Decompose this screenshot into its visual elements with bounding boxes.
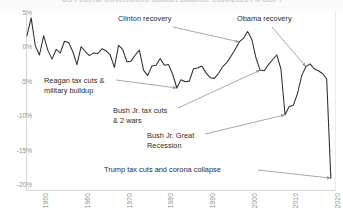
y-tick-label: 0%: [8, 44, 32, 51]
annotation-bush-jr-tax-cuts: Bush Jr. tax cuts& 2 wars: [113, 106, 167, 126]
chart-title: US Federal Government Budget Balance 193…: [0, 0, 343, 2]
series-layer: [0, 0, 343, 220]
annotation-line: Bush Jr. Great: [147, 131, 194, 141]
x-tick-label: 1980: [167, 193, 174, 208]
annotation-leader-line: [173, 27, 239, 42]
x-tick-label: 2000: [251, 193, 258, 208]
annotation-clinton-recovery: Clinton recovery: [118, 14, 171, 24]
plot-right-border: [335, 11, 336, 191]
annotation-great-recession: Bush Jr. GreatRecession: [147, 131, 194, 151]
x-tick-label: 2020: [334, 193, 341, 208]
annotation-leader-line: [258, 170, 331, 178]
y-axis-line: [26, 11, 27, 191]
annotation-line: Obama recovery: [237, 14, 292, 24]
annotation-arrow-head: [256, 70, 260, 73]
annotation-leader-line: [205, 115, 285, 134]
x-tick-label: 1950: [42, 193, 49, 208]
budget-balance-line: [27, 18, 331, 178]
annotation-leader-line: [116, 80, 177, 88]
annotation-line: Clinton recovery: [118, 14, 171, 24]
annotation-leader-line: [272, 27, 306, 67]
annotation-line: military buildup: [44, 86, 104, 96]
scan-gradient-overlay: [0, 0, 343, 220]
annotation-arrow-head: [302, 63, 306, 67]
x-tick-label: 2010: [292, 193, 299, 208]
annotation-leader-line: [178, 70, 260, 108]
annotation-arrow-head: [235, 39, 239, 42]
annotation-reagan-tax-cuts: Reagan tax cuts &military buildup: [44, 76, 104, 96]
annotation-line: Reagan tax cuts &: [44, 76, 104, 86]
annotation-line: Recession: [147, 141, 194, 151]
annotation-trump-corona: Trump tax cuts and corona collapse: [104, 165, 221, 175]
x-axis-line: [26, 190, 336, 191]
y-tick-label: -15%: [8, 148, 32, 155]
x-tick-label: 1960: [84, 193, 91, 208]
annotation-arrow-head: [281, 114, 285, 117]
annotation-line: Bush Jr. tax cuts: [113, 106, 167, 116]
budget-balance-chart: US Federal Government Budget Balance 193…: [0, 0, 343, 220]
annotation-obama-recovery: Obama recovery: [237, 14, 292, 24]
x-tick-label: 1990: [209, 193, 216, 208]
annotation-line: & 2 wars: [113, 116, 167, 126]
annotation-line: Trump tax cuts and corona collapse: [104, 165, 221, 175]
y-tick-label: 5%: [8, 10, 32, 17]
x-tick-label: 1970: [126, 193, 133, 208]
y-tick-label: -5%: [8, 79, 32, 86]
y-tick-label: -20%: [8, 182, 32, 189]
annotation-leader-lines: [116, 27, 331, 179]
y-tick-label: -10%: [8, 113, 32, 120]
annotation-arrow-head: [327, 176, 331, 179]
annotation-arrow-head: [173, 86, 177, 89]
